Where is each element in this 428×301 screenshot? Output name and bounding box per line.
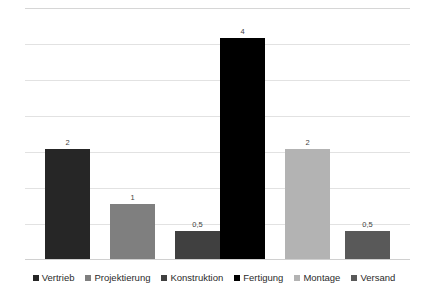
bar-value-label-vertrieb: 2 [65, 138, 69, 147]
legend: Vertrieb Projektierung Konstruktion Fert… [0, 272, 428, 283]
legend-swatch-icon [351, 275, 357, 281]
bar-vertrieb[interactable] [45, 149, 90, 259]
bar-value-label-konstruktion: 0,5 [192, 220, 202, 229]
legend-swatch-icon [33, 275, 39, 281]
legend-swatch-icon [161, 275, 167, 281]
bars-layer: 2 1 0,5 4 2 0,5 [25, 8, 410, 260]
bar-value-label-versand: 0,5 [362, 220, 372, 229]
bar-versand[interactable] [345, 231, 390, 259]
bar-value-label-montage: 2 [305, 138, 309, 147]
bar-montage[interactable] [285, 149, 330, 259]
bar-fertigung[interactable] [220, 38, 265, 259]
bar-value-label-fertigung: 4 [240, 27, 244, 36]
legend-item-label: Fertigung [243, 272, 283, 283]
legend-item-label: Montage [303, 272, 340, 283]
bar-konstruktion[interactable] [175, 231, 220, 259]
legend-item-versand[interactable]: Versand [351, 272, 395, 283]
bar-projektierung[interactable] [110, 204, 155, 259]
legend-item-montage[interactable]: Montage [294, 272, 340, 283]
bar-value-label-projektierung: 1 [130, 193, 134, 202]
legend-item-projektierung[interactable]: Projektierung [85, 272, 150, 283]
legend-swatch-icon [85, 275, 91, 281]
legend-item-fertigung[interactable]: Fertigung [234, 272, 283, 283]
legend-item-konstruktion[interactable]: Konstruktion [161, 272, 223, 283]
bar-chart: 2 1 0,5 4 2 0,5 Vertrieb [0, 0, 428, 301]
legend-swatch-icon [294, 275, 300, 281]
legend-item-label: Projektierung [94, 272, 150, 283]
legend-swatch-icon [234, 275, 240, 281]
legend-item-label: Versand [360, 272, 395, 283]
legend-item-label: Konstruktion [170, 272, 223, 283]
legend-item-vertrieb[interactable]: Vertrieb [33, 272, 75, 283]
legend-item-label: Vertrieb [42, 272, 75, 283]
